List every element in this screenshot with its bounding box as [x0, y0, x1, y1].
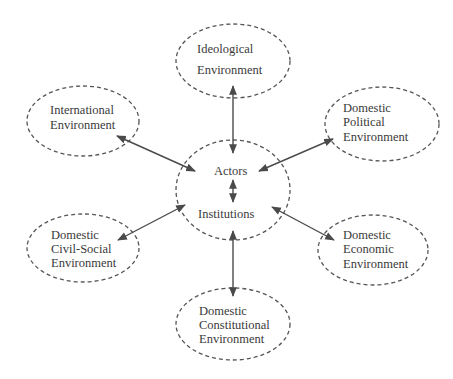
political-label-line1: Domestic [343, 101, 391, 115]
civil-social-label-line1: Domestic [51, 228, 99, 242]
economic-label-line2: Economic [343, 242, 394, 256]
civil-social-label-line3: Environment [51, 256, 117, 270]
international-label-line2: Environment [50, 118, 116, 132]
constitutional-label-line2: Constitutional [199, 318, 270, 332]
node-constitutional: Domestic Constitutional Environment [176, 288, 290, 360]
node-international: International Environment [27, 86, 139, 156]
arrow-center-international [117, 136, 195, 171]
international-label-line1: International [50, 103, 114, 117]
economic-label-line1: Domestic [343, 228, 391, 242]
center-label-actors: Actors [214, 164, 247, 178]
arrow-center-economic [272, 207, 334, 240]
node-civil-social: Domestic Civil-Social Environment [27, 214, 139, 282]
constitutional-label-line1: Domestic [199, 304, 247, 318]
constitutional-label-line3: Environment [199, 332, 265, 346]
node-political: Domestic Political Environment [325, 87, 439, 161]
arrow-center-civil-social [118, 205, 185, 240]
node-economic: Domestic Economic Environment [318, 215, 428, 285]
political-label-line2: Political [343, 115, 385, 129]
environment-diagram: Ideological Environment International En… [0, 0, 453, 379]
ideological-label-line1: Ideological [197, 42, 254, 56]
ideological-label-line2: Environment [197, 63, 263, 77]
civil-social-label-line2: Civil-Social [51, 242, 112, 256]
political-label-line3: Environment [343, 130, 409, 144]
economic-label-line3: Environment [343, 257, 409, 271]
arrow-center-political [259, 139, 333, 171]
center-label-institutions: Institutions [198, 207, 254, 221]
